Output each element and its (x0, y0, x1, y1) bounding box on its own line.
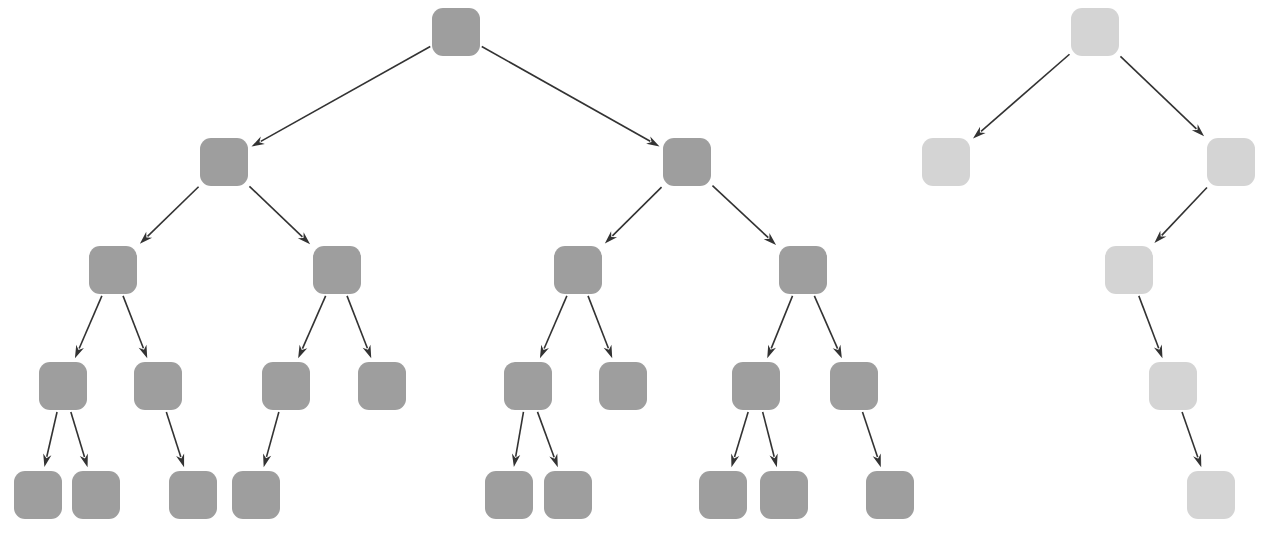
tree-node-l3h[interactable] (830, 362, 878, 410)
tree-node-l4a[interactable] (14, 471, 62, 519)
tree-node-l4b[interactable] (72, 471, 120, 519)
tree-node-l4f[interactable] (544, 471, 592, 519)
tree-node-l2c[interactable] (554, 246, 602, 294)
tree-node-l0[interactable] (432, 8, 480, 56)
tree-node-l3e[interactable] (504, 362, 552, 410)
tree-node-l4c[interactable] (169, 471, 217, 519)
tree-node-r3a[interactable] (1149, 362, 1197, 410)
tree-node-l2d[interactable] (779, 246, 827, 294)
tree-node-l3f[interactable] (599, 362, 647, 410)
tree-node-l4h[interactable] (760, 471, 808, 519)
tree-node-l2b[interactable] (313, 246, 361, 294)
tree-node-l3a[interactable] (39, 362, 87, 410)
tree-node-l3g[interactable] (732, 362, 780, 410)
tree-node-r4a[interactable] (1187, 471, 1235, 519)
node-layer (0, 0, 1264, 552)
tree-node-l3b[interactable] (134, 362, 182, 410)
tree-node-l2a[interactable] (89, 246, 137, 294)
tree-node-l4i[interactable] (866, 471, 914, 519)
tree-node-l4e[interactable] (485, 471, 533, 519)
tree-node-r2a[interactable] (1105, 246, 1153, 294)
tree-node-l3c[interactable] (262, 362, 310, 410)
tree-node-r1a[interactable] (922, 138, 970, 186)
tree-node-l4d[interactable] (232, 471, 280, 519)
tree-node-l1a[interactable] (200, 138, 248, 186)
tree-diagram-canvas (0, 0, 1264, 552)
tree-node-l1b[interactable] (663, 138, 711, 186)
tree-node-r0[interactable] (1071, 8, 1119, 56)
tree-node-l3d[interactable] (358, 362, 406, 410)
tree-node-r1b[interactable] (1207, 138, 1255, 186)
tree-node-l4g[interactable] (699, 471, 747, 519)
